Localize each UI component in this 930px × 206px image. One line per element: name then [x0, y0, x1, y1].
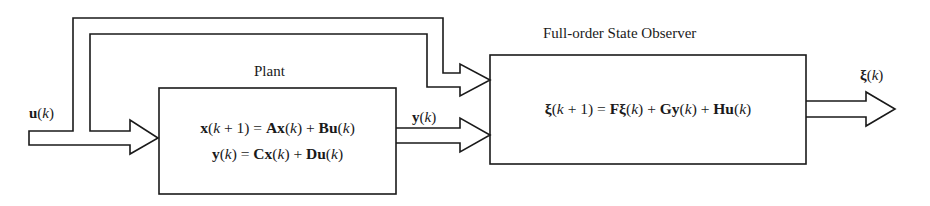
- observer-output-arrow: [806, 92, 895, 126]
- observer-equation: ξ(k + 1) = Fξ(k) + Gy(k) + Hu(k): [490, 99, 806, 119]
- plant-output-signal-label: y(k): [412, 108, 436, 126]
- observer-title: Full-order State Observer: [543, 24, 696, 42]
- plant-title: Plant: [254, 62, 285, 80]
- plant-output-equation: y(k) = Cx(k) + Du(k): [159, 144, 396, 164]
- observer-output-signal-label: ξ(k): [860, 66, 883, 84]
- input-signal-label: u(k): [29, 104, 54, 122]
- plant-block: [159, 88, 396, 194]
- plant-state-equation: x(k + 1) = Ax(k) + Bu(k): [159, 118, 396, 138]
- plant-output-arrow: [396, 118, 490, 152]
